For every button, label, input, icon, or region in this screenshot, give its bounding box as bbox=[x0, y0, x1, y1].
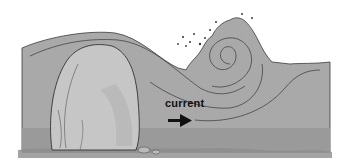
pebble bbox=[138, 147, 150, 153]
wave-illustration bbox=[0, 0, 357, 168]
current-label: current bbox=[165, 97, 204, 109]
pebble bbox=[152, 150, 160, 154]
